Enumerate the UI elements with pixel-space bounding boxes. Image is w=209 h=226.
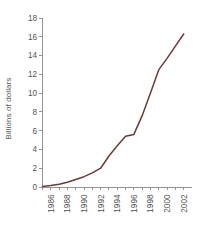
y-axis-tick-label: 14 [28,51,38,60]
y-axis-tick-label: 8 [32,108,37,117]
y-axis-tick-label: 12 [28,70,38,79]
x-axis-tick-label: 1998 [146,194,155,213]
y-axis-tick-label: 0 [32,183,37,192]
data-series-line [43,34,184,187]
x-axis-tick-label: 2002 [180,194,189,213]
y-axis-tick-label: 16 [28,33,38,42]
chart-container: Billions of dollars 02468101214161819861… [0,0,209,226]
y-axis-tick-label: 4 [32,145,37,154]
x-axis-tick-label: 1990 [80,194,89,213]
line-chart-plot: 0246810121416181986198819901992199419961… [0,0,209,226]
x-axis-tick-label: 2000 [163,194,172,213]
y-axis-tick-label: 10 [28,89,38,98]
x-axis-tick-label: 1986 [47,194,56,213]
y-axis-tick-label: 6 [32,127,37,136]
y-axis-tick-label: 18 [28,14,38,23]
y-axis-tick-label: 2 [32,164,37,173]
x-axis-tick-label: 1996 [130,194,139,213]
x-axis-tick-label: 1992 [97,194,106,213]
x-axis-tick-label: 1988 [63,194,72,213]
x-axis-tick-label: 1994 [113,194,122,213]
